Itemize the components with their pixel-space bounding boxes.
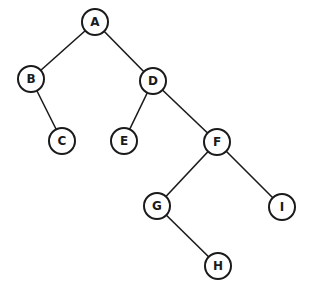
node-label: F [213,135,221,149]
node-label: A [90,15,99,29]
node-C: C [48,127,76,155]
node-label: I [280,200,284,214]
node-F: F [203,128,231,156]
tree-diagram: ABCDEFGIH [0,0,312,299]
node-D: D [139,67,167,95]
node-label: G [152,199,162,213]
node-label: D [148,74,158,88]
node-label: E [120,134,128,148]
node-label: H [213,259,223,273]
node-A: A [81,8,109,36]
node-I: I [268,193,296,221]
node-label: B [26,72,35,86]
tree-edges [0,0,312,299]
node-E: E [110,127,138,155]
node-H: H [204,252,232,280]
node-G: G [143,192,171,220]
node-B: B [17,65,45,93]
node-label: C [58,134,67,148]
